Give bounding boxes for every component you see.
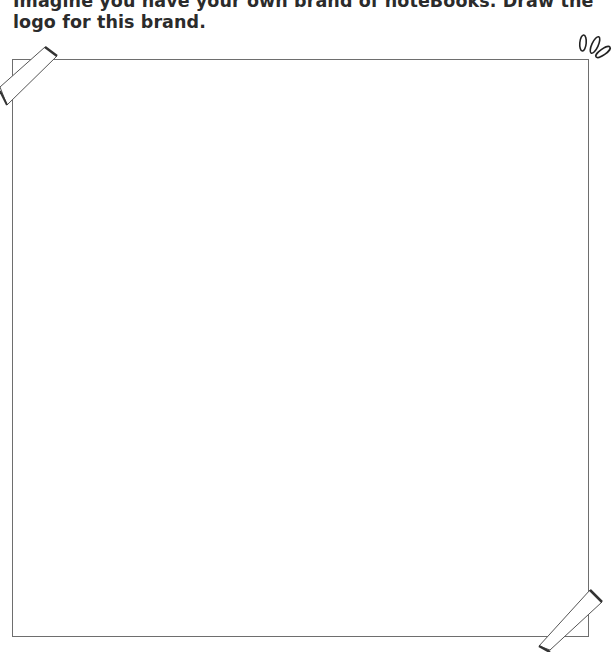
decorations [0,0,613,652]
tape-icon [0,47,57,105]
tape-icon [539,590,602,652]
sparkle-icon [579,35,612,60]
